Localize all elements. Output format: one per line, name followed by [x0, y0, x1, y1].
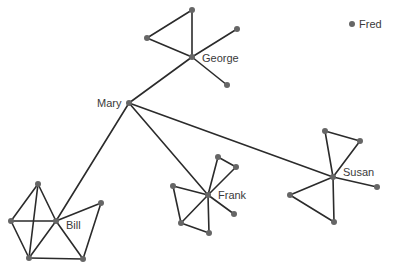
node-g1	[189, 7, 195, 13]
node-label-fred: Fred	[359, 18, 382, 30]
node-b2	[8, 218, 14, 224]
node-b5	[80, 256, 86, 262]
node-g4	[224, 82, 230, 88]
edge-frank-f5	[181, 195, 208, 223]
edge-b3-b5	[83, 203, 101, 259]
node-b4	[26, 255, 32, 261]
edge-f3-f5	[173, 186, 181, 223]
edge-susan-s5	[333, 177, 334, 222]
node-b1	[35, 181, 41, 187]
node-f3	[170, 183, 176, 189]
node-s2	[357, 138, 363, 144]
node-s4	[287, 192, 293, 198]
node-f6	[206, 230, 212, 236]
edge-mary-bill	[56, 103, 129, 221]
edge-f5-f6	[181, 223, 209, 233]
edge-b2-b4	[11, 221, 29, 258]
node-f1	[215, 154, 221, 160]
node-label-susan: Susan	[343, 166, 374, 178]
edge-mary-george	[129, 57, 192, 103]
node-b3	[98, 200, 104, 206]
edge-susan-s1	[325, 131, 333, 177]
network-graph: MaryGeorgeFredBillFrankSusan	[0, 0, 398, 268]
node-f5	[178, 220, 184, 226]
node-label-frank: Frank	[218, 189, 247, 201]
edge-mary-susan	[129, 103, 333, 177]
edge-susan-s3	[333, 177, 377, 187]
edge-bill-b1	[38, 184, 56, 221]
edge-frank-f6	[208, 195, 209, 233]
node-label-mary: Mary	[97, 97, 122, 109]
node-g3	[234, 26, 240, 32]
node-f2	[233, 164, 239, 170]
node-label-bill: Bill	[66, 219, 81, 231]
node-fred	[349, 21, 355, 27]
node-s5	[331, 219, 337, 225]
node-s3	[374, 184, 380, 190]
node-frank	[205, 192, 211, 198]
edge-s4-s5	[290, 195, 334, 222]
node-susan	[330, 174, 336, 180]
node-s1	[322, 128, 328, 134]
node-mary	[126, 100, 132, 106]
edge-b4-b5	[29, 258, 83, 259]
edge-g1-g2	[147, 10, 192, 38]
node-g2	[144, 35, 150, 41]
node-george	[189, 54, 195, 60]
edge-george-g2	[147, 38, 192, 57]
node-f4	[231, 211, 237, 217]
edge-f1-f2	[218, 157, 236, 167]
edge-susan-s4	[290, 177, 333, 195]
edge-frank-f3	[173, 186, 208, 195]
edge-s1-s2	[325, 131, 360, 141]
nodes-layer	[8, 7, 380, 262]
node-label-george: George	[202, 52, 239, 64]
node-bill	[53, 218, 59, 224]
